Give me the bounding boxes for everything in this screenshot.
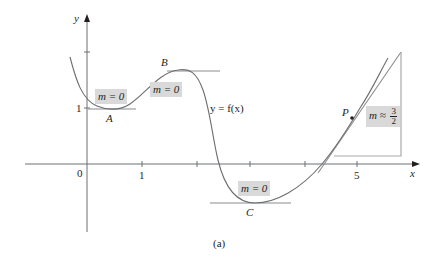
slope-denominator: 2 bbox=[391, 117, 396, 126]
slope-label-c: m = 0 bbox=[238, 181, 270, 196]
y-axis-arrow-icon bbox=[84, 14, 90, 22]
function-label: y = f(x) bbox=[210, 103, 244, 114]
point-c-label: C bbox=[246, 207, 253, 218]
y-tick-label-1: 1 bbox=[76, 103, 82, 114]
slope-label-p-prefix: m ≈ bbox=[369, 109, 386, 121]
point-b-label: B bbox=[161, 57, 168, 68]
figure-caption: (a) bbox=[213, 238, 225, 249]
slope-label-b: m = 0 bbox=[150, 82, 182, 97]
point-a-label: A bbox=[106, 113, 113, 124]
slope-fraction: 3 2 bbox=[390, 107, 397, 126]
point-p-label: P bbox=[342, 107, 349, 118]
x-tick-label-5: 5 bbox=[354, 170, 360, 181]
point-p-marker bbox=[350, 116, 354, 120]
function-curve bbox=[70, 57, 388, 203]
x-tick-label-1: 1 bbox=[139, 170, 145, 181]
x-axis-label: x bbox=[410, 168, 415, 179]
axes bbox=[25, 20, 416, 232]
diagram-canvas bbox=[0, 0, 436, 259]
slope-label-a: m = 0 bbox=[95, 89, 127, 104]
origin-label: 0 bbox=[77, 168, 83, 179]
slope-label-p: m ≈ 3 2 bbox=[366, 106, 400, 127]
y-axis-label: y bbox=[74, 13, 79, 24]
